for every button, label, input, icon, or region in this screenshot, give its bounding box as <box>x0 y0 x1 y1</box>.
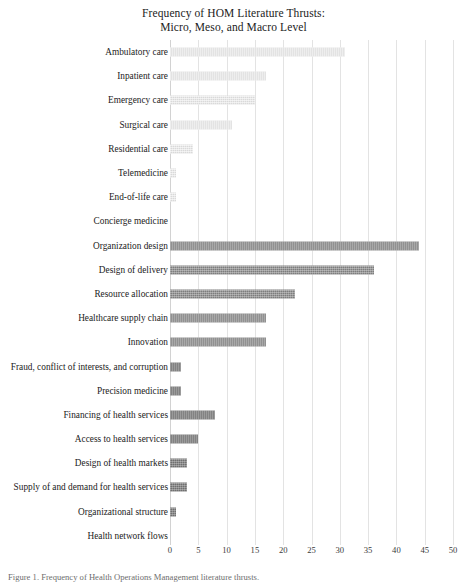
bar-row: Ambulatory care <box>0 40 467 64</box>
bar-row: Healthcare supply chain <box>0 306 467 330</box>
x-tick-label: 45 <box>420 545 429 555</box>
x-tick-label: 30 <box>336 545 345 555</box>
category-label: Supply of and demand for health services <box>14 482 168 493</box>
bar-row: Financing of health services <box>0 403 467 427</box>
category-label: Surgical care <box>119 119 168 130</box>
bar <box>170 435 198 444</box>
bar <box>170 410 215 419</box>
bar-row: Fraud, conflict of interests, and corrup… <box>0 354 467 378</box>
x-tick-label: 15 <box>251 545 260 555</box>
bar <box>170 193 176 202</box>
bar-track <box>170 48 453 57</box>
bar-track <box>170 410 453 419</box>
category-label: Emergency care <box>108 95 168 106</box>
bar <box>170 48 345 57</box>
chart-title-line1: Frequency of HOM Literature Thrusts: <box>142 7 325 19</box>
category-label: Design of delivery <box>99 264 168 275</box>
bar-row: Design of delivery <box>0 258 467 282</box>
bar-track <box>170 507 453 516</box>
bar-row: Access to health services <box>0 427 467 451</box>
category-label: Healthcare supply chain <box>78 313 168 324</box>
bar <box>170 120 232 129</box>
category-label: Ambulatory care <box>105 47 168 58</box>
bar-row: Innovation <box>0 330 467 354</box>
chart-title: Frequency of HOM Literature Thrusts: Mic… <box>0 6 467 34</box>
bar-row: Residential care <box>0 137 467 161</box>
x-tick-label: 10 <box>222 545 231 555</box>
bar <box>170 483 187 492</box>
category-label: Concierge medicine <box>94 216 168 227</box>
bar-track <box>170 314 453 323</box>
category-label: Health network flows <box>87 530 168 541</box>
x-tick-label: 35 <box>364 545 373 555</box>
category-label: Resource allocation <box>94 288 168 299</box>
category-label: Precision medicine <box>97 385 168 396</box>
category-label: Residential care <box>108 143 168 154</box>
category-label: Organizational structure <box>78 506 168 517</box>
bar-rows: Ambulatory careInpatient careEmergency c… <box>0 40 467 548</box>
category-label: Access to health services <box>75 434 168 445</box>
bar-track <box>170 435 453 444</box>
bar-track <box>170 120 453 129</box>
figure-caption: Figure 1. Frequency of Health Operations… <box>8 572 460 582</box>
x-tick-label: 20 <box>279 545 288 555</box>
bar-row: Telemedicine <box>0 161 467 185</box>
category-label: Organization design <box>93 240 168 251</box>
bar-track <box>170 459 453 468</box>
x-tick-label: 50 <box>449 545 458 555</box>
bar-row: End-of-life care <box>0 185 467 209</box>
bar-row: Inpatient care <box>0 64 467 88</box>
bar-track <box>170 96 453 105</box>
x-tick-label: 0 <box>168 545 172 555</box>
bar-track <box>170 531 453 540</box>
bar-row: Design of health markets <box>0 451 467 475</box>
category-label: Financing of health services <box>63 409 168 420</box>
bar-row: Precision medicine <box>0 379 467 403</box>
category-label: Fraud, conflict of interests, and corrup… <box>11 361 168 372</box>
bar-track <box>170 72 453 81</box>
bar-track <box>170 338 453 347</box>
bar-track <box>170 241 453 250</box>
bar-track <box>170 217 453 226</box>
bar-row: Resource allocation <box>0 282 467 306</box>
bar <box>170 241 419 250</box>
bar <box>170 362 181 371</box>
x-tick-label: 5 <box>196 545 200 555</box>
bar-row: Surgical care <box>0 113 467 137</box>
category-label: Innovation <box>128 337 168 348</box>
bar-row: Emergency care <box>0 88 467 112</box>
category-label: End-of-life care <box>109 192 168 203</box>
bar-track <box>170 169 453 178</box>
bar <box>170 72 266 81</box>
bar <box>170 265 374 274</box>
bar-track <box>170 144 453 153</box>
bar <box>170 314 266 323</box>
bar <box>170 96 255 105</box>
category-label: Design of health markets <box>75 458 168 469</box>
plot-area: Ambulatory careInpatient careEmergency c… <box>0 40 467 540</box>
x-tick-label: 40 <box>392 545 401 555</box>
bar <box>170 459 187 468</box>
bar-track <box>170 483 453 492</box>
bar-track <box>170 193 453 202</box>
bar <box>170 507 176 516</box>
bar <box>170 144 193 153</box>
chart-figure: Frequency of HOM Literature Thrusts: Mic… <box>0 0 467 583</box>
bar-row: Concierge medicine <box>0 209 467 233</box>
bar-row: Supply of and demand for health services <box>0 475 467 499</box>
bar <box>170 338 266 347</box>
chart-title-line2: Micro, Meso, and Macro Level <box>0 20 467 34</box>
bar-track <box>170 289 453 298</box>
bar <box>170 386 181 395</box>
category-label: Inpatient care <box>117 71 168 82</box>
bar <box>170 169 176 178</box>
x-axis-ticks: 05101520253035404550 <box>170 545 453 561</box>
bar-row: Organization design <box>0 234 467 258</box>
bar-track <box>170 265 453 274</box>
bar-track <box>170 362 453 371</box>
bar-row: Organizational structure <box>0 500 467 524</box>
category-label: Telemedicine <box>118 168 168 179</box>
x-tick-label: 25 <box>307 545 316 555</box>
bar-track <box>170 386 453 395</box>
bar <box>170 289 295 298</box>
